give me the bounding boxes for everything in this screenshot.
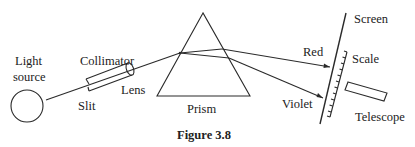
collimator-label: Collimator xyxy=(80,54,135,68)
telescope-label: Telescope xyxy=(355,110,405,124)
red-ray-internal xyxy=(180,49,222,53)
red-label: Red xyxy=(303,45,324,59)
light-source-label-line2: source xyxy=(13,70,46,84)
scale-label: Scale xyxy=(352,52,380,66)
lens-label: Lens xyxy=(121,83,145,97)
violet-label: Violet xyxy=(282,97,313,111)
entry-point xyxy=(179,52,181,54)
prism-triangle xyxy=(157,13,250,96)
spectrometer-diagram: Light source Collimator Slit Lens Prism … xyxy=(0,0,415,147)
screen-label: Screen xyxy=(354,12,389,26)
light-source-circle xyxy=(11,90,43,122)
slit-label: Slit xyxy=(78,99,96,113)
prism-label: Prism xyxy=(187,102,216,116)
light-source-label-line1: Light xyxy=(15,54,43,68)
figure-caption: Figure 3.8 xyxy=(177,128,231,142)
violet-ray-internal xyxy=(180,53,229,58)
telescope-body xyxy=(345,82,387,101)
